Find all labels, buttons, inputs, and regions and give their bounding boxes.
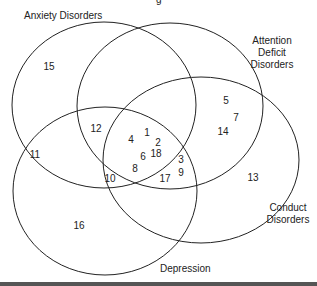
set-ellipse-attention-deficit-disorders	[77, 23, 263, 189]
item-number: 13	[247, 172, 259, 183]
item-number: 1	[144, 127, 150, 138]
item-number: 4	[128, 134, 134, 145]
item-number: 8	[132, 163, 138, 174]
set-label-conduct-disorders: Conduct	[269, 202, 306, 213]
venn-diagram: gAnxiety DisordersAttentionDeficitDisord…	[0, 0, 317, 286]
set-label-attention-deficit-disorders: Disorders	[251, 59, 294, 70]
item-number: 11	[30, 149, 41, 160]
bottom-divider	[0, 282, 317, 286]
set-label-attention-deficit-disorders: Deficit	[258, 47, 286, 58]
item-number: 14	[217, 126, 229, 137]
item-number: 3	[178, 154, 184, 165]
item-number: 10	[104, 173, 116, 184]
item-number: 16	[73, 220, 85, 231]
item-number: 12	[90, 123, 102, 134]
set-label-depression: Depression	[160, 263, 211, 274]
title-fragment: g	[156, 0, 162, 5]
item-number: 17	[159, 173, 171, 184]
item-number: 18	[150, 148, 162, 159]
set-label-attention-deficit-disorders: Attention	[252, 35, 291, 46]
item-number: 2	[155, 137, 161, 148]
item-number: 15	[43, 61, 55, 72]
item-number: 9	[178, 167, 184, 178]
set-label-conduct-disorders: Disorders	[267, 214, 310, 225]
set-label-anxiety-disorders: Anxiety Disorders	[24, 10, 102, 21]
item-number: 7	[233, 112, 239, 123]
item-number: 6	[140, 151, 146, 162]
set-ellipse-depression	[13, 107, 197, 275]
item-number: 5	[223, 95, 229, 106]
